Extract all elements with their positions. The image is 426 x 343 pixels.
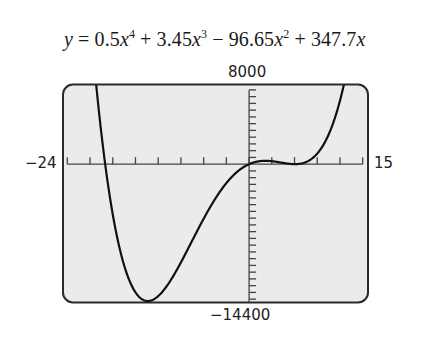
calculator-screen bbox=[0, 0, 426, 343]
